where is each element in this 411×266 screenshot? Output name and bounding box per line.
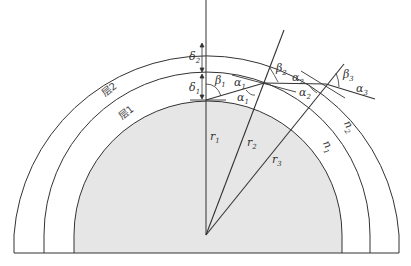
beta1-label: β1: [214, 74, 226, 89]
alpha2-lower-label: α2: [299, 86, 311, 101]
layer2-label: 层2: [99, 80, 119, 99]
alpha1-lower-label: α1: [237, 91, 249, 106]
angle-alpha1-lower-arc: [246, 90, 255, 95]
beta3-label: β3: [342, 68, 354, 83]
beta2-label: β2: [275, 62, 287, 77]
delta2-label: δ2: [189, 50, 201, 65]
n1-label: n1: [318, 138, 337, 156]
alpha3-label: α3: [356, 82, 368, 97]
delta2-dimension: [200, 43, 204, 72]
angle-alpha2-lower-arc: [309, 85, 317, 93]
delta1-label: δ1: [189, 81, 200, 96]
angle-beta3-arc: [336, 73, 339, 87]
delta1-dimension: [200, 74, 204, 99]
layer1-label: 层1: [116, 103, 136, 122]
ray-refraction-diagram: δ2 δ1 β1 α1 α1 β2 α2 α2 β3 α3 r1 r2 r3 n…: [0, 0, 411, 266]
alpha2-upper-label: α2: [292, 71, 304, 86]
n2-label: n2: [339, 118, 358, 136]
